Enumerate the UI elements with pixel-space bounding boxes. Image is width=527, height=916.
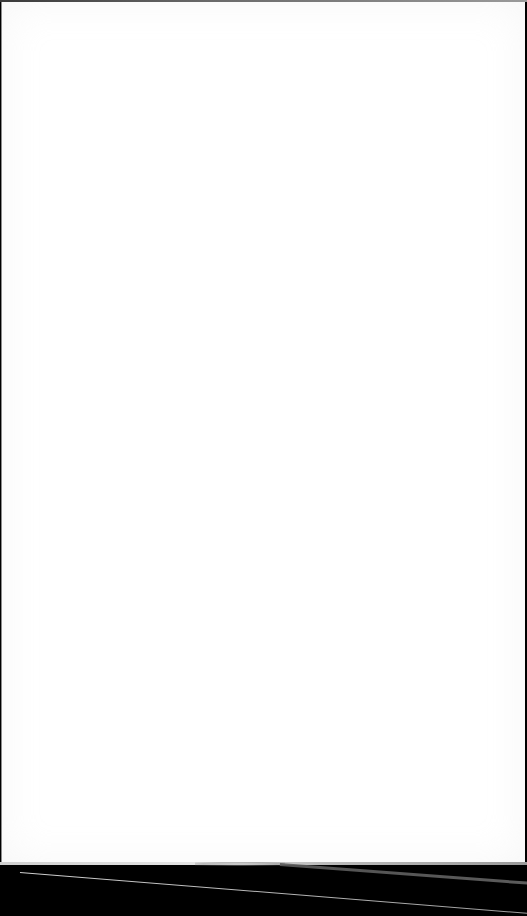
glare-highlight [195, 862, 285, 866]
bezel-reflection-band [280, 863, 527, 885]
blank-screen [1, 2, 525, 864]
photo-frame [0, 0, 527, 916]
